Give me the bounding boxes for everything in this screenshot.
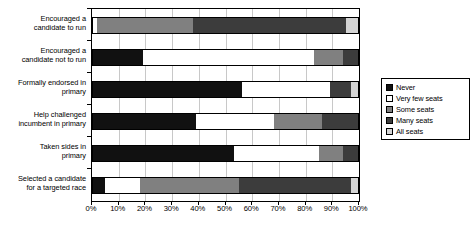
bar-segment	[274, 113, 322, 130]
bar-row	[92, 177, 359, 194]
x-axis-tick-label: 30%	[156, 204, 186, 213]
bar-row	[92, 17, 359, 34]
bar-segment	[92, 81, 242, 98]
category-axis-labels: Encouraged acandidate to runEncouraged a…	[0, 8, 89, 200]
x-axis-tick-label: 70%	[263, 204, 293, 213]
bar-segment	[343, 145, 359, 162]
bar-segment	[322, 113, 359, 130]
category-label: Selected a candidatefor a targeted race	[0, 175, 86, 192]
category-label: Encouraged acandidate not to run	[0, 47, 86, 64]
y-axis-tick	[87, 104, 91, 105]
gridline	[145, 9, 146, 201]
x-axis-tick-label: 0%	[76, 204, 106, 213]
bar-segment	[143, 49, 314, 66]
y-axis-tick	[87, 168, 91, 169]
y-axis-tick	[87, 72, 91, 73]
gridline	[332, 9, 333, 201]
bar-segment	[92, 177, 105, 194]
bar-segment	[196, 113, 273, 130]
bar-segment	[92, 145, 234, 162]
x-axis-tick-label: 100%	[343, 204, 373, 213]
bar-row	[92, 145, 359, 162]
gridline	[172, 9, 173, 201]
x-axis-tick-label: 50%	[210, 204, 240, 213]
gridline	[119, 9, 120, 201]
x-axis-tick-label: 90%	[316, 204, 346, 213]
bar-segment	[314, 49, 343, 66]
x-axis-tick-label: 10%	[103, 204, 133, 213]
bar-segment	[140, 177, 239, 194]
gridline	[199, 9, 200, 201]
category-label: Formally endorsed inprimary	[0, 79, 86, 96]
bar-row	[92, 49, 359, 66]
legend-item[interactable]: Never	[386, 82, 466, 92]
bar-segment	[319, 145, 343, 162]
bar-segment	[351, 81, 359, 98]
gridline	[306, 9, 307, 201]
bar-segment	[92, 49, 143, 66]
legend-label: Very few seats	[396, 94, 443, 103]
legend-item[interactable]: Very few seats	[386, 93, 466, 103]
category-label: Encouraged acandidate to run	[0, 15, 86, 32]
x-axis-tick-label: 60%	[236, 204, 266, 213]
chart-legend: NeverVery few seatsSome seatsMany seatsA…	[381, 78, 470, 140]
category-label: Help challengedincumbent in primary	[0, 111, 86, 128]
legend-item[interactable]: Many seats	[386, 115, 466, 125]
bar-segment	[234, 145, 319, 162]
legend-label: Some seats	[396, 105, 434, 114]
bar-segment	[239, 177, 351, 194]
legend-swatch-icon	[386, 84, 393, 91]
legend-swatch-icon	[386, 95, 393, 102]
bar-segment	[105, 177, 140, 194]
x-axis-tick-label: 20%	[129, 204, 159, 213]
bar-row	[92, 81, 359, 98]
y-axis-tick	[87, 8, 91, 9]
gridline	[252, 9, 253, 201]
bar-segment	[92, 113, 196, 130]
legend-item[interactable]: Some seats	[386, 104, 466, 114]
bar-segment	[346, 17, 359, 34]
bar-segment	[242, 81, 330, 98]
bar-segment	[193, 17, 345, 34]
legend-item[interactable]: All seats	[386, 126, 466, 136]
x-axis-tick-label: 80%	[290, 204, 320, 213]
y-axis-tick	[87, 136, 91, 137]
bar-row	[92, 113, 359, 130]
bar-segment	[343, 49, 359, 66]
x-axis-tick-label: 40%	[183, 204, 213, 213]
stacked-bar-chart: Encouraged acandidate to runEncouraged a…	[0, 0, 475, 235]
category-label: Taken sides inprimary	[0, 143, 86, 160]
gridline	[279, 9, 280, 201]
legend-swatch-icon	[386, 106, 393, 113]
plot-inner	[92, 9, 359, 201]
legend-swatch-icon	[386, 128, 393, 135]
bar-segment	[97, 17, 193, 34]
legend-label: Many seats	[396, 116, 433, 125]
legend-label: All seats	[396, 127, 423, 136]
legend-label: Never	[396, 83, 415, 92]
bar-segment	[330, 81, 351, 98]
plot-area	[91, 8, 360, 202]
legend-swatch-icon	[386, 117, 393, 124]
bar-segment	[351, 177, 359, 194]
y-axis-tick	[87, 40, 91, 41]
gridline	[226, 9, 227, 201]
